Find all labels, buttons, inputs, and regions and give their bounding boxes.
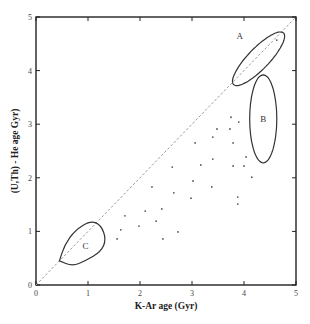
data-point [251,176,253,178]
data-point [212,136,214,138]
y-tick-label: 5 [28,13,32,22]
x-tick-label: 2 [138,289,142,298]
data-point [211,186,213,188]
data-point [230,116,232,118]
y-tick-label: 4 [28,67,32,76]
data-point [194,142,196,144]
region-label-c: C [82,241,88,251]
data-point [192,180,194,182]
data-point [116,238,118,240]
data-point [151,186,153,188]
x-tick-label: 4 [242,289,246,298]
data-point [155,220,157,222]
y-tick-label: 1 [28,227,32,236]
x-tick-label: 3 [190,289,194,298]
region-label-b: B [260,114,266,124]
data-point [161,208,163,210]
x-tick-label: 1 [86,289,90,298]
data-point [120,229,122,231]
data-point [276,39,278,41]
data-point [216,128,218,130]
data-point [124,215,126,217]
data-point [171,166,173,168]
data-point [232,165,234,167]
y-axis-label: (U,Th) - He age Gyr) [10,109,21,194]
region-label-a: A [237,31,244,41]
data-point [212,158,214,160]
data-point [232,142,234,144]
data-point [229,128,231,130]
y-tick-label: 2 [28,174,32,183]
x-axis-label: K-Ar age (Gyr) [135,301,198,312]
data-point [237,203,239,205]
data-point [173,192,175,194]
data-point [144,210,146,212]
y-tick-label: 0 [28,281,32,290]
data-point [245,156,247,158]
scatter-chart: 012345012345ABC K-Ar age (Gyr) (U,Th) - … [0,0,310,324]
y-tick-label: 3 [28,120,32,129]
data-point [243,165,245,167]
data-point [138,225,140,227]
data-point [238,121,240,123]
x-tick-label: 0 [34,289,38,298]
data-point [200,164,202,166]
data-point [237,196,239,198]
data-point [162,238,164,240]
x-tick-label: 5 [294,289,298,298]
data-point [190,197,192,199]
one-to-one-line [36,17,296,285]
data-point [177,231,179,233]
